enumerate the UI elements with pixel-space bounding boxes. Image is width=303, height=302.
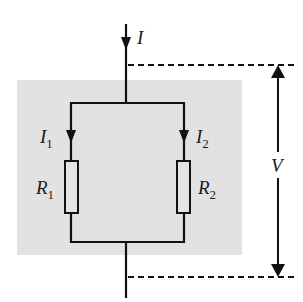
voltage-arrow-down-icon — [271, 264, 285, 277]
current-arrow-icon — [121, 37, 131, 50]
label-total-current: I — [136, 27, 145, 48]
resistor-r2 — [177, 161, 190, 213]
parallel-network-shading — [17, 80, 242, 255]
circuit-svg: I I1 I2 R1 R2 V — [0, 0, 303, 302]
circuit-diagram: I I1 I2 R1 R2 V — [0, 0, 303, 302]
label-voltage: V — [271, 155, 285, 176]
voltage-arrow-up-icon — [271, 65, 285, 78]
resistor-r1 — [65, 161, 78, 213]
